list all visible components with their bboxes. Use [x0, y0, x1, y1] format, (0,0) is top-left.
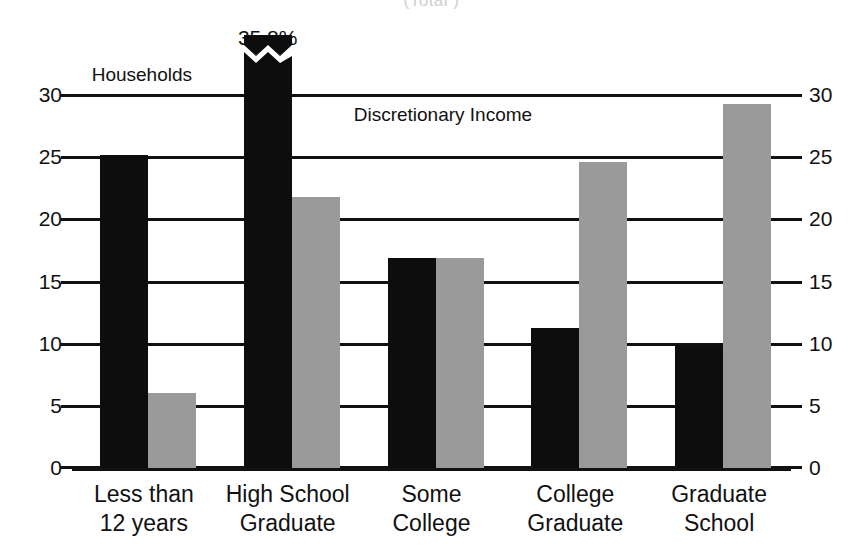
- tick-25: [791, 156, 802, 159]
- tick-10: [61, 343, 72, 346]
- bar-group-2: [244, 95, 340, 468]
- y-axis-left-label-0: 0: [16, 457, 62, 478]
- axis-break-zigzag-icon: [244, 39, 292, 63]
- bar-households-1: [100, 155, 148, 468]
- y-axis-left-label-5: 5: [16, 395, 62, 416]
- tick-30: [61, 94, 72, 97]
- tick-5: [791, 405, 802, 408]
- tick-15: [791, 281, 802, 284]
- y-axis-right-label-0: 0: [809, 457, 855, 478]
- series-label-households: Households: [92, 63, 192, 86]
- bar-discretionary-income-1: [148, 393, 196, 468]
- bar-households-5: [675, 345, 723, 468]
- y-axis-right-label-5: 5: [809, 395, 855, 416]
- y-axis-left-label-25: 25: [16, 146, 62, 167]
- cropped-subtitle: (Total ): [0, 0, 863, 11]
- bar-discretionary-income-4: [579, 162, 627, 468]
- bar-chart: (Total ) 35.8% Households Discretionary …: [0, 0, 863, 560]
- tick-30: [791, 94, 802, 97]
- bar-group-4: [531, 95, 627, 468]
- y-axis-right-label-10: 10: [809, 333, 855, 354]
- y-axis-right-label-30: 30: [809, 84, 855, 105]
- bar-group-1: [100, 95, 196, 468]
- y-axis-left-label-15: 15: [16, 271, 62, 292]
- bar-discretionary-income-5: [723, 104, 771, 468]
- y-axis-right-label-25: 25: [809, 146, 855, 167]
- bar-households-2: [244, 35, 292, 468]
- bar-group-3: [388, 95, 484, 468]
- x-axis-label-5-line2: School: [633, 509, 805, 538]
- x-axis-label-5: GraduateSchool: [633, 480, 805, 538]
- y-axis-right-label-20: 20: [809, 208, 855, 229]
- bar-discretionary-income-3: [436, 258, 484, 468]
- y-axis-right-label-15: 15: [809, 271, 855, 292]
- plot-area: [72, 95, 791, 468]
- tick-20: [791, 218, 802, 221]
- bar-households-4: [531, 328, 579, 468]
- tick-20: [61, 218, 72, 221]
- tick-5: [61, 405, 72, 408]
- tick-15: [61, 281, 72, 284]
- y-axis-left-label-10: 10: [16, 333, 62, 354]
- tick-0: [791, 466, 802, 469]
- tick-25: [61, 156, 72, 159]
- bar-discretionary-income-2: [292, 197, 340, 468]
- tick-10: [791, 343, 802, 346]
- bar-group-5: [675, 95, 771, 468]
- x-axis-label-5-line1: Graduate: [633, 480, 805, 509]
- y-axis-left-label-20: 20: [16, 208, 62, 229]
- tick-0: [61, 466, 72, 469]
- bar-households-3: [388, 258, 436, 468]
- y-axis-left-label-30: 30: [16, 84, 62, 105]
